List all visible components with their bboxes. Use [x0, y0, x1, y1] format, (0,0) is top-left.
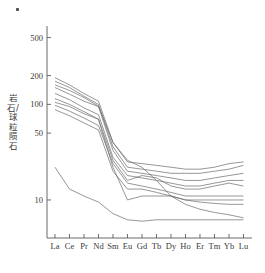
series-line — [55, 88, 243, 181]
ree-spider-diagram-figure: 岩石/球粒陨石 5002001005010LaCePrNdSmEuGdTbDyH… — [0, 0, 265, 273]
y-tick-label: 500 — [19, 33, 43, 43]
series-line — [55, 105, 243, 196]
series-line — [55, 110, 243, 200]
x-tick-label: Lu — [234, 241, 252, 251]
y-tick-label: 200 — [19, 71, 43, 81]
series-line — [55, 167, 243, 221]
series-line — [55, 78, 243, 169]
series-line — [55, 102, 243, 189]
series-line — [55, 81, 243, 173]
series-line — [55, 85, 243, 218]
series-line — [55, 99, 243, 205]
series-line — [55, 93, 243, 186]
y-tick-label: 100 — [19, 99, 43, 109]
y-tick-label: 50 — [19, 128, 43, 138]
y-tick-label: 10 — [19, 195, 43, 205]
